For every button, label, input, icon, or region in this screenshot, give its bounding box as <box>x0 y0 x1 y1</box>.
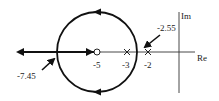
breakaway-label: -2.55 <box>157 23 176 33</box>
zero-label: -5 <box>93 60 101 70</box>
root-locus-diagram: -5 -3 -2 -2.55 -7.45 Re Im <box>0 0 219 101</box>
top-direction-arrow-icon <box>93 9 101 16</box>
breakin-label: -7.45 <box>17 71 36 81</box>
real-axis-label: Re <box>197 53 207 63</box>
pole-label: -3 <box>122 60 130 70</box>
breakaway-pointer-arrow <box>145 35 160 47</box>
breakin-pointer-arrow <box>42 59 54 70</box>
pole-label: -2 <box>144 60 152 70</box>
zero-marker-icon <box>94 49 100 55</box>
imag-axis-label: Im <box>181 11 191 21</box>
bottom-direction-arrow-icon <box>93 89 101 96</box>
